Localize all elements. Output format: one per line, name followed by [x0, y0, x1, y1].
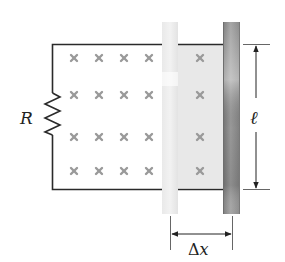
cross-icon [121, 134, 127, 140]
cross-icon [71, 134, 77, 140]
bar-initial [162, 22, 178, 214]
cross-icon [96, 134, 102, 140]
resistor-label: R [19, 108, 33, 128]
cross-icon [96, 55, 102, 61]
cross-icon [121, 55, 127, 61]
cross-icon [71, 55, 77, 61]
cross-icon [146, 55, 152, 61]
resistor-zigzag [45, 93, 60, 135]
cross-icon [121, 168, 127, 174]
cross-icon [71, 92, 77, 98]
cross-icon [71, 168, 77, 174]
cross-icon [96, 168, 102, 174]
length-label: ℓ [250, 107, 258, 128]
displacement-label: Δx [188, 240, 209, 259]
swept-area [178, 45, 224, 188]
cross-icon [96, 92, 102, 98]
bar-final [223, 22, 240, 214]
cross-icon [146, 134, 152, 140]
moving-bar-circuit-diagram: R [0, 0, 285, 262]
cross-icon [146, 168, 152, 174]
cross-icon [121, 92, 127, 98]
cross-icon [146, 92, 152, 98]
